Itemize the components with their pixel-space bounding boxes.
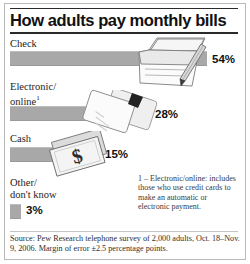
bar-cash [10,147,78,162]
infographic-panel: How adults pay monthly bills Check 54% E… [0,0,250,264]
title-top-rule [10,8,238,9]
panel-border [4,3,246,260]
bar-value-electronic: 28% [155,108,178,120]
bar-electronic [10,106,122,121]
bar-label-electronic: Electronic/ online1 [10,81,56,107]
bar-label-check: Check [10,38,37,50]
page-title: How adults pay monthly bills [10,10,240,30]
bar-label-electronic-text: Electronic/ online [10,81,56,106]
title-divider [10,32,238,34]
bar-label-other: Other/ don't know [10,177,57,200]
bar-check [10,51,207,66]
footnote-marker: 1 [36,94,40,102]
bar-value-cash: 15% [105,148,128,160]
bar-value-check: 54% [212,53,235,65]
bar-value-other: 3% [26,204,43,216]
bar-other [10,204,21,219]
footnote-text: 1 – Electronic/online: includes those wh… [138,174,240,212]
bar-label-cash: Cash [10,133,31,145]
source-divider [10,231,238,232]
source-text: Source: Pew Research telephone survey of… [10,234,242,254]
